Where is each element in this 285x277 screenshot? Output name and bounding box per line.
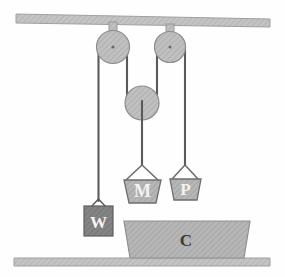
weight-w: W <box>84 206 113 236</box>
block-m: M <box>124 180 161 203</box>
platform-c-label: C <box>180 231 192 250</box>
block-m-label: M <box>134 181 151 201</box>
hanger-p <box>172 165 198 179</box>
pulley-diagram: M P W C <box>0 0 285 277</box>
floor-beam <box>14 258 270 266</box>
diagram-canvas: M P W C <box>0 0 285 277</box>
platform-c: C <box>124 221 250 258</box>
weight-w-label: W <box>90 213 107 232</box>
hanger-m <box>126 165 158 180</box>
block-p: P <box>170 179 201 200</box>
block-p-label: P <box>180 180 190 199</box>
ceiling-beam <box>16 14 270 27</box>
pulley-fixed-left <box>97 31 130 64</box>
pulley-fixed-right <box>155 32 186 63</box>
